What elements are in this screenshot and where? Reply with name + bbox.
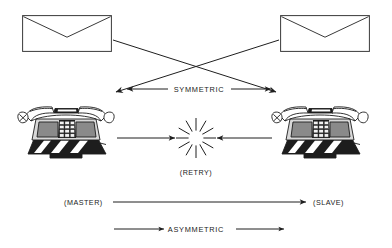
symmetric-connector: SYMMETRIC (127, 85, 271, 94)
envelope-left (23, 16, 112, 52)
symmetric-label: SYMMETRIC (174, 85, 225, 94)
master-label: (MASTER) (64, 198, 103, 207)
master-slave-connector: (MASTER) (SLAVE) (64, 198, 344, 207)
asymmetric-label: ASYMMETRIC (168, 225, 224, 234)
collision-burst (176, 118, 216, 158)
retry-label: (RETRY) (180, 168, 213, 177)
diagram-svg: SYMMETRIC (RETRY) (MASTER) (SLAVE) ASYMM… (0, 0, 392, 248)
asymmetric-connector: ASYMMETRIC (114, 225, 284, 234)
telephone-right (272, 107, 368, 158)
diagram-canvas: SYMMETRIC (RETRY) (MASTER) (SLAVE) ASYMM… (0, 0, 392, 248)
slave-label: (SLAVE) (313, 198, 344, 207)
envelope-right (281, 16, 370, 52)
telephone-left (18, 107, 114, 158)
